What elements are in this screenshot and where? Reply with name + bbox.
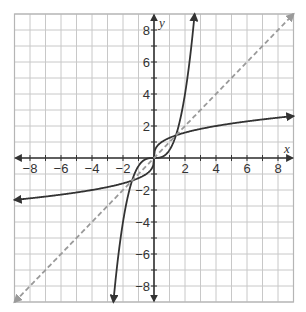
x-tick-label: 4 bbox=[212, 161, 219, 176]
graph-plot: −8−6−4−224688642−2−4−6−8 x y bbox=[0, 0, 306, 312]
x-tick-label: 6 bbox=[243, 161, 250, 176]
y-tick-label: −4 bbox=[135, 215, 150, 230]
x-tick-label: −4 bbox=[85, 161, 100, 176]
x-tick-label: 2 bbox=[181, 161, 188, 176]
y-tick-label: 4 bbox=[143, 87, 150, 102]
y-tick-label: 8 bbox=[143, 23, 150, 38]
x-tick-label: −2 bbox=[116, 161, 131, 176]
x-axis-label: x bbox=[283, 141, 290, 156]
y-tick-label: −8 bbox=[135, 279, 150, 294]
x-tick-label: −8 bbox=[23, 161, 38, 176]
y-axis-label: y bbox=[157, 15, 165, 30]
x-tick-label: −6 bbox=[54, 161, 69, 176]
y-tick-label: 2 bbox=[143, 119, 150, 134]
x-tick-label: 8 bbox=[274, 161, 281, 176]
y-tick-label: 6 bbox=[143, 55, 150, 70]
y-tick-label: −6 bbox=[135, 247, 150, 262]
y-tick-label: −2 bbox=[135, 183, 150, 198]
